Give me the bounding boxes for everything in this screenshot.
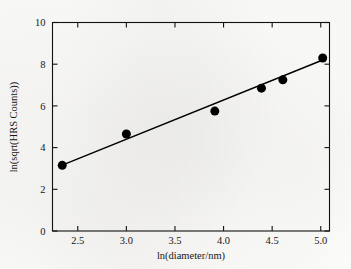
data-point xyxy=(257,84,266,93)
x-tick-label: 4.0 xyxy=(217,235,230,246)
x-tick-label: 3.5 xyxy=(168,235,181,246)
x-axis-title: ln(diameter/nm) xyxy=(157,250,226,262)
y-axis-title: ln(sqrt(HRS Counts)) xyxy=(8,81,20,172)
x-tick-label: 4.5 xyxy=(266,235,279,246)
data-point xyxy=(122,130,131,139)
data-point xyxy=(58,161,67,170)
y-tick-label: 10 xyxy=(35,17,46,28)
y-tick-label: 4 xyxy=(40,142,46,153)
x-tick-label: 5.0 xyxy=(314,235,327,246)
y-axis-tick-labels: 0246810 xyxy=(35,17,46,237)
x-axis-ticks xyxy=(78,23,321,232)
y-axis-ticks xyxy=(53,23,330,232)
y-tick-label: 8 xyxy=(40,59,45,70)
x-tick-label: 3.0 xyxy=(120,235,133,246)
y-tick-label: 0 xyxy=(40,226,45,237)
y-tick-label: 2 xyxy=(40,184,45,195)
y-tick-label: 6 xyxy=(40,101,45,112)
scatter-plot-svg: 2.53.03.54.04.55.0 0246810 ln(diameter/n… xyxy=(0,0,351,269)
data-point xyxy=(210,107,219,116)
data-point xyxy=(278,75,287,84)
x-axis-tick-labels: 2.53.03.54.04.55.0 xyxy=(71,235,327,246)
plot-frame xyxy=(53,23,330,232)
x-tick-label: 2.5 xyxy=(71,235,84,246)
figure-panel: 2.53.03.54.04.55.0 0246810 ln(diameter/n… xyxy=(0,0,351,269)
data-point-group xyxy=(58,53,327,169)
data-point xyxy=(318,53,327,62)
